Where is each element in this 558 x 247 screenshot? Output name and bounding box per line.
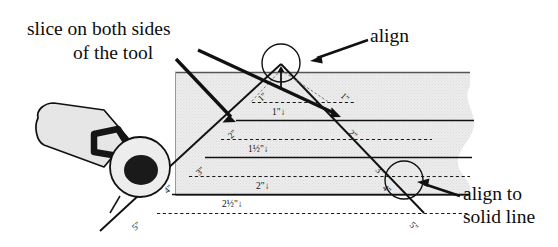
down-arrow-icon: ↓ — [238, 199, 243, 209]
center-label-4: 2½"↓ — [222, 199, 243, 209]
align-solid-caption-line2: solid line — [463, 206, 535, 228]
figure-canvas: slice on both sides of the tool align al… — [0, 0, 558, 247]
rotary-cutter-tool — [36, 103, 170, 213]
slice-caption-line2: of the tool — [73, 41, 153, 65]
align-caption: align — [370, 25, 409, 47]
slice-caption-line1: slice on both sides — [27, 17, 171, 41]
center-label-2: 1½"↓ — [248, 144, 269, 154]
align-arrow — [310, 40, 368, 64]
workpiece-panel — [175, 72, 474, 196]
down-arrow-icon: ↓ — [265, 181, 270, 191]
down-arrow-icon: ↓ — [264, 144, 269, 154]
center-label-3: 2"↓ — [256, 181, 269, 191]
align-solid-caption-line1: align to — [463, 183, 522, 205]
down-arrow-icon: ↓ — [281, 107, 286, 117]
center-label-1: 1"↓ — [272, 107, 285, 117]
